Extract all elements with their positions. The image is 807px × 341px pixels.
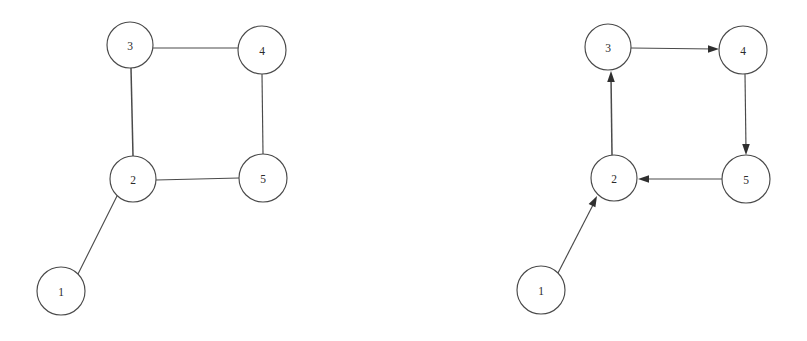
arrowhead-2-to-3 [607,71,615,82]
arrowhead-1-to-2 [589,196,597,207]
node-2[interactable]: 2 [591,155,637,201]
node-5[interactable]: 5 [722,155,770,203]
node-3-label: 3 [605,42,611,54]
node-2-label: 2 [611,173,617,185]
arrowhead-3-to-4 [708,45,719,53]
edge-3-to-4 [631,48,714,49]
node-3[interactable]: 3 [585,24,631,70]
directed-edges [558,45,750,273]
directed-graph: 3 4 2 5 1 [0,0,807,341]
edge-1-to-2 [558,202,595,273]
node-4[interactable]: 4 [719,26,767,74]
graph-figure: 3 4 2 5 1 [0,0,807,341]
arrowhead-5-to-2 [638,175,649,183]
node-4-label: 4 [740,45,746,57]
node-1-label: 1 [538,285,544,297]
node-5-label: 5 [743,174,749,186]
edge-4-to-5 [745,74,746,150]
node-1[interactable]: 1 [517,266,565,314]
arrowhead-4-to-5 [742,144,750,155]
edge-2-to-3 [611,76,612,155]
